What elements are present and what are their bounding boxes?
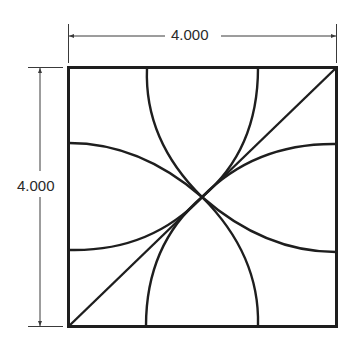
- arc-top-right: [202, 68, 258, 197]
- arc-bottom-left: [146, 197, 202, 326]
- arc-bottom-right: [202, 197, 258, 326]
- arc-left-upper: [69, 143, 202, 197]
- width-dimension-label: 4.000: [168, 27, 212, 43]
- arc-right-upper: [202, 144, 336, 197]
- arc-left-lower: [69, 197, 202, 250]
- arc-right-lower: [202, 197, 336, 252]
- arc-top-left: [147, 68, 202, 197]
- technical-drawing: [0, 0, 361, 348]
- height-dimension-label: 4.000: [17, 175, 55, 197]
